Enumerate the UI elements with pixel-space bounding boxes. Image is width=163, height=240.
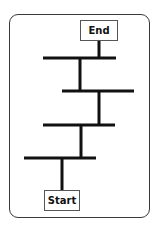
start-label: Start	[48, 195, 76, 206]
start-node: Start	[44, 190, 80, 211]
end-node: End	[80, 20, 118, 41]
end-label: End	[88, 25, 109, 36]
